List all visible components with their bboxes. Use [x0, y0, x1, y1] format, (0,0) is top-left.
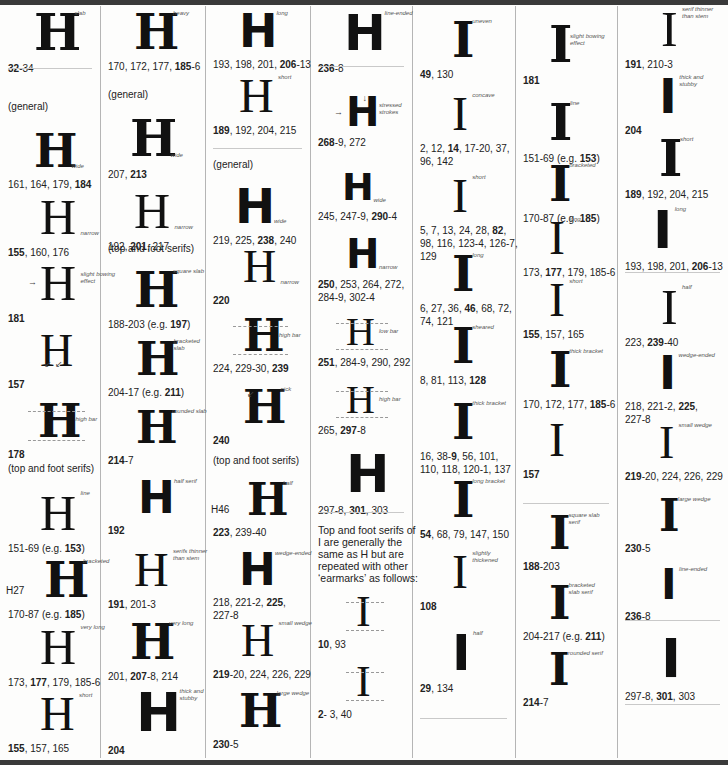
letter-h-glyph: H — [40, 622, 76, 672]
letter-i-glyph: I — [659, 134, 682, 184]
annotation-label: long bracket — [472, 478, 510, 485]
caption-part: 297-8, — [318, 505, 349, 516]
annotation-label: sheared — [472, 324, 510, 331]
caption-part: , 201-3 — [125, 599, 156, 610]
key-number: 14 — [448, 143, 459, 154]
caption-part: 224, 229-30, — [213, 363, 272, 374]
caption-part: -8 — [335, 63, 344, 74]
caption-part: , 134 — [431, 683, 453, 694]
letter-i-glyph: I — [659, 494, 680, 538]
key-number: 225 — [678, 401, 695, 412]
key-number: 213 — [130, 169, 147, 180]
letter-h-glyph: H — [134, 186, 170, 236]
annotation-label: narrow — [175, 224, 213, 231]
key-number: 197 — [170, 319, 187, 330]
section-heading: (top and foot serifs) — [108, 242, 194, 255]
key-number: 155 — [8, 247, 25, 258]
caption-part: -4 — [388, 211, 397, 222]
caption-part: 170, 172, 177, — [523, 399, 590, 410]
annotation-label: half — [682, 284, 720, 291]
annotation-label: very long — [169, 620, 207, 627]
specimen-numbers: 204-217 (e.g. 211) — [523, 630, 605, 643]
annotation-label: high bar — [279, 332, 317, 339]
annotation-label: slab — [75, 10, 113, 17]
caption-part: , 157, 165 — [25, 743, 69, 754]
specimen-numbers: 16, 38-9, 56, 101, — [420, 450, 498, 463]
caption-part: 245, 247-9, — [318, 211, 371, 222]
caption-part: , 192, 204, 215 — [642, 189, 709, 200]
specimen-numbers-cont: 284-9, 302-4 — [318, 291, 375, 304]
key-number: 82 — [492, 225, 503, 236]
caption-part: , 157, 165 — [540, 329, 584, 340]
specimen-numbers-cont: 227-8 — [213, 609, 239, 622]
caption-part: , — [503, 225, 506, 236]
key-number: 220 — [213, 295, 230, 306]
annotation-label: low bar — [379, 328, 417, 335]
specimen-numbers-cont: 74, 121 — [420, 315, 453, 328]
letter-i-glyph: I — [659, 72, 677, 120]
section-rule — [8, 68, 92, 69]
specimen-numbers: 297-8, 301, 303 — [318, 504, 388, 517]
pointer-arrow-icon: ↙ — [247, 390, 255, 399]
annotation-label: wide — [374, 197, 412, 204]
annotation-label: bracketed — [83, 558, 121, 565]
column-divider — [100, 6, 101, 758]
key-number: 236 — [318, 63, 335, 74]
annotation-label: half — [283, 480, 321, 487]
letter-h-glyph: H — [239, 548, 276, 592]
caption-part: , 240 — [274, 235, 296, 246]
caption-part: 2, 12, — [420, 143, 448, 154]
specimen-numbers: 268-9, 272 — [318, 136, 366, 149]
caption-part: 204-17 (e.g. — [108, 387, 165, 398]
section-heading: (general) — [213, 158, 253, 171]
section-rule — [318, 512, 404, 513]
figure-reference: H46 — [211, 504, 229, 515]
key-number: 225 — [266, 597, 283, 608]
letter-h-glyph: H — [239, 8, 278, 54]
letter-h-glyph: H — [239, 72, 274, 120]
letter-h-glyph: H — [40, 258, 76, 308]
letter-h-glyph: H — [235, 182, 275, 230]
guide-line — [336, 391, 388, 392]
letter-i-glyph: I — [653, 204, 672, 256]
section-rule — [625, 704, 720, 705]
annotation-label: short — [569, 278, 607, 285]
key-number: 192 — [108, 525, 125, 536]
specimen-numbers: 191, 201-3 — [108, 598, 156, 611]
specimen-numbers: 108 — [420, 600, 437, 613]
specimen-numbers: 157 — [523, 468, 540, 481]
specimen-numbers: 10, 93 — [318, 638, 346, 651]
specimen-numbers: 8, 81, 113, 128 — [420, 374, 486, 387]
key-number: 250 — [318, 279, 335, 290]
annotation-label: half — [473, 630, 511, 637]
letter-i-glyph: I — [659, 350, 676, 396]
letter-h-glyph: H — [241, 618, 274, 664]
letter-i-glyph: I — [549, 510, 571, 556]
specimen-numbers: 251, 284-9, 290, 292 — [318, 356, 410, 369]
letter-i-glyph: I — [549, 214, 565, 262]
letter-i-glyph: I — [549, 346, 571, 394]
caption-part: , 239-40 — [230, 527, 267, 538]
letter-h-glyph: H — [40, 488, 76, 538]
specimen-numbers: 155, 157, 165 — [523, 328, 584, 341]
annotation-label: thick bracket — [472, 400, 510, 407]
specimen-numbers: 223, 239-40 — [213, 526, 266, 539]
annotation-label: long — [675, 206, 713, 213]
specimen-numbers: 157 — [8, 378, 25, 391]
caption-part: -13 — [296, 59, 310, 70]
specimen-numbers: 236-8 — [318, 62, 344, 75]
caption-part: -20, 224, 226, 229 — [642, 471, 723, 482]
key-number: 29 — [420, 683, 431, 694]
specimen-numbers: 204-17 (e.g. 211) — [108, 386, 184, 399]
annotation-label: long — [569, 216, 607, 223]
caption-part: , 68, 72, — [476, 303, 512, 314]
caption-part: , 130 — [431, 69, 453, 80]
caption-part: , 56, 101, — [457, 451, 499, 462]
specimen-numbers: 214-7 — [108, 454, 134, 467]
pointer-arrow-icon: ↓ — [363, 94, 368, 103]
key-number: 185 — [175, 61, 192, 72]
specimen-numbers: 230-5 — [213, 738, 239, 751]
key-number: 240 — [213, 435, 230, 446]
letter-h-glyph: H — [40, 192, 76, 242]
letter-h-glyph: H — [346, 234, 379, 274]
